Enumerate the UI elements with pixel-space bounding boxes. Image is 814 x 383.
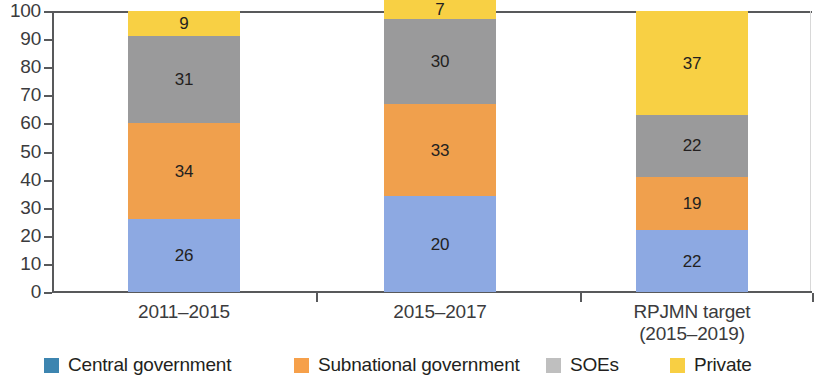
legend-color-swatch-icon — [546, 358, 561, 373]
x-axis-category-label: 2011–2015 — [58, 301, 310, 323]
y-axis-tick-label: 100 — [10, 0, 41, 21]
legend-item[interactable]: Private — [670, 352, 752, 378]
bar-segment-value-label: 20 — [431, 236, 450, 253]
bar-segment-value-label: 7 — [435, 1, 444, 18]
x-axis-category-label-line: 2015–2017 — [314, 301, 566, 323]
bar-segment: 37 — [636, 11, 748, 115]
bar-segment-value-label: 22 — [683, 137, 702, 154]
bar-segment: 34 — [128, 123, 240, 219]
y-axis-tick-mark — [44, 180, 52, 182]
bar-segment: 9 — [128, 11, 240, 36]
bar-group: 2033307 — [384, 11, 496, 292]
legend-item[interactable]: Subnational government — [294, 352, 520, 378]
x-axis-category-label: RPJMN target(2015–2019) — [566, 301, 814, 345]
bar-segment: 30 — [384, 19, 496, 103]
bar-segment-value-label: 22 — [683, 253, 702, 270]
bar-segment-value-label: 31 — [175, 71, 194, 88]
bar-stack: 22192237 — [636, 11, 748, 292]
x-axis-category-label-line: RPJMN target — [566, 301, 814, 323]
bar-segment-value-label: 34 — [175, 163, 194, 180]
bar-segment: 22 — [636, 230, 748, 292]
x-axis-category-label: 2015–2017 — [314, 301, 566, 323]
bar-segment-value-label: 26 — [175, 247, 194, 264]
y-axis-tick-mark — [44, 123, 52, 125]
bar-stack: 2634319 — [128, 11, 240, 292]
y-axis-tick-label: 40 — [20, 169, 41, 190]
y-axis-tick-mark — [44, 236, 52, 238]
legend-color-swatch-icon — [44, 358, 59, 373]
bar-segment-value-label: 33 — [431, 142, 450, 159]
x-axis-labels: 2011–20152015–2017RPJMN target(2015–2019… — [52, 293, 812, 345]
x-axis-category-label-line: 2011–2015 — [58, 301, 310, 323]
bar-segment: 7 — [384, 0, 496, 19]
y-axis-tick-label: 60 — [20, 112, 41, 133]
bar-group: 2634319 — [128, 11, 240, 292]
legend-color-swatch-icon — [670, 358, 685, 373]
y-axis-tick-mark — [44, 11, 52, 13]
y-axis-tick-mark — [44, 292, 52, 294]
bar-segment: 33 — [384, 104, 496, 197]
y-axis-tick-label: 90 — [20, 28, 41, 49]
bar-segment-value-label: 30 — [431, 53, 450, 70]
y-axis: 0102030405060708090100 — [0, 11, 52, 292]
y-axis-tick-mark — [44, 264, 52, 266]
y-axis-tick-label: 20 — [20, 225, 41, 246]
y-axis-tick-mark — [44, 95, 52, 97]
bar-segment-value-label: 37 — [683, 55, 702, 72]
legend-item[interactable]: SOEs — [546, 352, 619, 378]
bar-group: 22192237 — [636, 11, 748, 292]
legend-item[interactable]: Central government — [44, 352, 231, 378]
y-axis-tick-mark — [44, 152, 52, 154]
bar-segment-value-label: 9 — [179, 15, 188, 32]
bar-stack: 2033307 — [384, 0, 496, 292]
y-axis-tick-label: 30 — [20, 197, 41, 218]
legend-color-swatch-icon — [294, 358, 309, 373]
chart-legend: Central governmentSubnational government… — [0, 352, 814, 383]
stacked-bar-chart: 0102030405060708090100 26343192033307221… — [0, 0, 814, 383]
legend-item-label: Private — [694, 354, 752, 376]
bar-segment: 19 — [636, 177, 748, 230]
x-axis-category-label-line: (2015–2019) — [566, 323, 814, 345]
y-axis-tick-label: 70 — [20, 84, 41, 105]
y-axis-tick-mark — [44, 39, 52, 41]
y-axis-tick-label: 0 — [31, 281, 41, 302]
legend-item-label: Subnational government — [318, 354, 520, 376]
bar-segment: 22 — [636, 115, 748, 177]
y-axis-tick-label: 80 — [20, 56, 41, 77]
legend-item-label: SOEs — [570, 354, 619, 376]
bar-segment-value-label: 19 — [683, 195, 702, 212]
y-axis-tick-label: 10 — [20, 253, 41, 274]
bar-segment: 26 — [128, 219, 240, 292]
y-axis-tick-mark — [44, 208, 52, 210]
bars-layer: 2634319203330722192237 — [52, 11, 812, 292]
bar-segment: 20 — [384, 196, 496, 292]
y-axis-tick-label: 50 — [20, 141, 41, 162]
y-axis-tick-mark — [44, 67, 52, 69]
legend-item-label: Central government — [68, 354, 231, 376]
bar-segment: 31 — [128, 36, 240, 123]
